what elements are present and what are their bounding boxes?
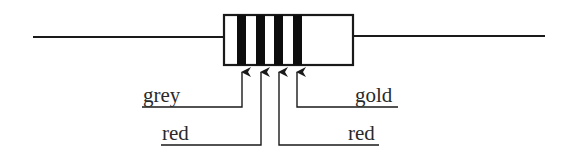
label-band-2: red: [162, 121, 189, 145]
band-3: [274, 15, 283, 65]
band-2: [256, 15, 265, 65]
label-band-3: red: [348, 121, 375, 145]
label-band-1: grey: [143, 83, 181, 107]
label-band-4: gold: [355, 83, 393, 107]
band-4: [293, 15, 302, 65]
resistor-diagram: grey red red gold: [0, 0, 574, 158]
band-1: [237, 15, 246, 65]
